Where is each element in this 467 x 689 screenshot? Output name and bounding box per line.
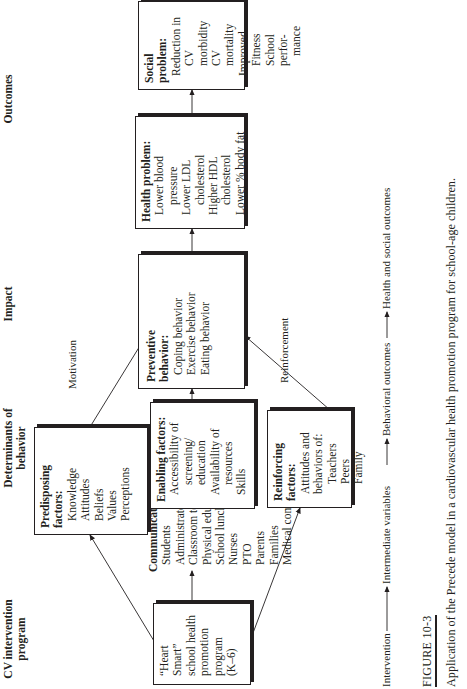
box-item: Teachers	[326, 417, 339, 501]
box-item: Beliefs	[93, 434, 106, 528]
box-item: cholesterol	[194, 123, 207, 222]
box-title: Enabling factors:	[155, 409, 168, 502]
health-problem-box: Health problem: Lower blood pressure Low…	[135, 116, 245, 229]
box-item: behaviors of:	[312, 417, 325, 501]
box-item: Higher HDL	[207, 123, 220, 222]
box-item: Reduction in	[170, 8, 183, 83]
box-item: School perfor-	[264, 8, 291, 83]
axis-intervention: Intervention	[380, 633, 392, 687]
motivation-label: Motivation	[66, 340, 78, 389]
rotated-figure-page: CV intervention program Determinants of …	[0, 0, 467, 689]
box-item: Accessibility of	[168, 409, 181, 502]
box-item: Fitness	[250, 8, 263, 83]
box-item: Exercise behavior	[185, 261, 198, 382]
box-title: Health problem:	[140, 123, 153, 222]
box-item: Family	[352, 417, 365, 501]
box-line: (K–6)	[225, 610, 238, 676]
enabling-factors-box: Enabling factors: Accessibility of scree…	[150, 402, 255, 509]
box-title: Predisposing factors:	[39, 434, 66, 528]
box-line: school health	[185, 610, 198, 676]
box-item: Knowledge	[66, 434, 79, 528]
box-item: Skills	[235, 409, 248, 502]
box-title: Social problem:	[143, 8, 170, 83]
box-item: Values	[106, 434, 119, 528]
box-item: Eating behavior	[199, 261, 212, 382]
box-item: Improved	[237, 8, 250, 83]
box-item: Coping behavior	[172, 261, 185, 382]
box-item: Perceptions	[119, 434, 132, 528]
box-title: Reinforcing factors:	[272, 417, 299, 501]
box-item: Availability of	[209, 409, 222, 502]
axis-behavioral-outcomes: Behavioral outcomes	[380, 343, 392, 436]
box-item: resources	[222, 409, 235, 502]
box-item: CV morbidity	[183, 8, 210, 83]
box-item: Lower blood	[153, 123, 166, 222]
box-item: Attitudes and	[299, 417, 312, 501]
axis-health-social-outcomes: Health and social outcomes	[380, 188, 392, 309]
box-item: CV mortality	[210, 8, 237, 83]
box-item: Attitudes	[79, 434, 92, 528]
reinforcing-factors-box: Reinforcing factors: Attitudes and behav…	[267, 410, 352, 508]
box-item: pressure	[167, 123, 180, 222]
predisposing-factors-box: Predisposing factors: Knowledge Attitude…	[34, 427, 148, 535]
axis-intermediate-variables: Intermediate variables	[380, 486, 392, 584]
preventive-behavior-box: Preventive behavior: Coping behavior Exe…	[138, 254, 245, 389]
box-item: Lower % body fat	[234, 123, 247, 222]
social-problem-box: Social problem: Reduction in CV morbidit…	[138, 1, 245, 90]
box-line: program	[212, 610, 225, 676]
box-item: Lower LDL	[180, 123, 193, 222]
box-item: cholesterol	[220, 123, 233, 222]
figure-caption: Application of the Precede model in a ca…	[444, 178, 459, 687]
box-title: Preventive behavior:	[145, 302, 172, 382]
list-item: Parents	[254, 457, 267, 572]
box-item: screening/	[182, 409, 195, 502]
box-line: “Heart Smart”	[158, 610, 185, 676]
box-line: promotion	[198, 610, 211, 676]
heart-smart-program-box: “Heart Smart” school health promotion pr…	[153, 603, 251, 685]
reinforcement-label: Reinforcement	[278, 318, 290, 383]
box-item: education	[195, 409, 208, 502]
box-item: mance	[290, 8, 303, 83]
figure-label: FIGURE 10-3	[420, 615, 437, 687]
box-item: Peers	[339, 417, 352, 501]
